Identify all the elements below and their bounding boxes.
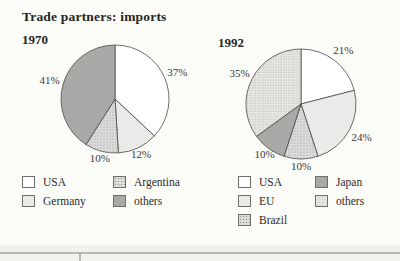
legend-item-japan: Japan — [315, 173, 364, 192]
pie-chart-1992: 21%24%10%10%35% — [210, 40, 400, 175]
slice-value-label-others: 41% — [40, 74, 60, 86]
legend-item-brazil: Brazil — [238, 210, 315, 229]
legend-swatch-icon-others — [113, 195, 126, 207]
legend-1992: USAEUBrazilJapanothers — [238, 173, 364, 229]
legend-label-argentina: Argentina — [134, 176, 180, 188]
legend-label-usa: USA — [43, 176, 66, 188]
legend-item-germany: Germany — [22, 192, 113, 211]
legend-item-argentina: Argentina — [113, 173, 180, 192]
slice-value-label-brazil: 10% — [291, 160, 311, 172]
legend-swatch-icon-others — [315, 195, 328, 207]
chart-canvas: Trade partners: imports 1970 1992 37%12%… — [0, 0, 400, 261]
bottom-rule-tick — [79, 252, 81, 261]
slice-value-label-japan: 10% — [255, 148, 275, 160]
legend-label-germany: Germany — [43, 195, 86, 207]
slice-value-label-usa: 21% — [333, 44, 353, 56]
legend-label-brazil: Brazil — [259, 214, 287, 226]
slice-value-label-usa: 37% — [167, 66, 187, 78]
legend-swatch-icon-brazil — [238, 214, 251, 226]
chart-title: Trade partners: imports — [22, 9, 167, 25]
legend-item-eu: EU — [238, 192, 315, 211]
legend-swatch-icon-japan — [315, 176, 328, 188]
slice-value-label-others: 35% — [229, 67, 249, 79]
slice-value-label-argentina: 10% — [90, 152, 110, 164]
legend-item-others: others — [113, 192, 180, 211]
legend-label-others: others — [134, 195, 162, 207]
slice-value-label-germany: 12% — [131, 148, 151, 160]
legend-label-eu: EU — [259, 195, 274, 207]
legend-swatch-icon-germany — [22, 195, 35, 207]
pie-chart-1970: 37%12%10%41% — [28, 36, 208, 169]
legend-label-usa: USA — [259, 176, 282, 188]
legend-item-others: others — [315, 192, 364, 211]
legend-swatch-icon-usa — [238, 176, 251, 188]
legend-swatch-icon-argentina — [113, 176, 126, 188]
legend-label-japan: Japan — [336, 176, 362, 188]
legend-swatch-icon-eu — [238, 195, 251, 207]
legend-label-others: others — [336, 195, 364, 207]
bottom-rule — [0, 252, 400, 254]
legend-item-usa: USA — [238, 173, 315, 192]
slice-value-label-eu: 24% — [351, 131, 371, 143]
legend-1970: USAGermanyArgentinaothers — [22, 173, 180, 210]
legend-swatch-icon-usa — [22, 176, 35, 188]
legend-item-usa: USA — [22, 173, 113, 192]
